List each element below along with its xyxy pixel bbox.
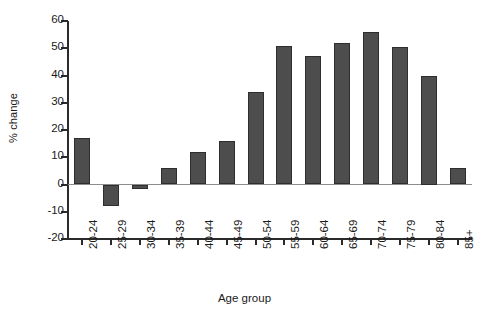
bar (161, 168, 177, 184)
x-tick-label: 40-44 (203, 220, 215, 249)
plot-area: 6050403020100-10-20 20-2425-2930-3435-39… (68, 21, 472, 239)
x-tick-mark (81, 239, 83, 245)
bar (392, 47, 408, 185)
x-tick-label: 20-24 (87, 220, 99, 249)
x-tick-label: 80-84 (434, 220, 446, 249)
x-tick-mark (197, 239, 199, 245)
x-tick-mark (283, 239, 285, 245)
x-tick-label: 60-64 (318, 220, 330, 249)
bar (450, 168, 466, 184)
x-tick-label: 45-49 (232, 220, 244, 249)
bar (276, 46, 292, 185)
bar (132, 185, 148, 189)
bar-series (68, 21, 472, 239)
x-tick-mark (341, 239, 343, 245)
y-tick-label: 40 (51, 68, 64, 80)
y-tick-label: -10 (47, 204, 64, 216)
x-tick-mark (428, 239, 430, 245)
y-tick-label: 60 (51, 13, 64, 25)
bar (305, 56, 321, 184)
x-tick-mark (226, 239, 228, 245)
x-tick-label: 35-39 (174, 220, 186, 249)
x-tick-label: 85+ (463, 229, 475, 249)
x-tick-mark (139, 239, 141, 245)
bar (421, 76, 437, 185)
x-axis-title: Age group (0, 292, 489, 304)
x-tick-label: 50-54 (261, 220, 273, 249)
y-tick-label: 50 (51, 40, 64, 52)
y-axis-title: % change (7, 73, 19, 163)
x-tick-label: 30-34 (145, 220, 157, 249)
x-tick-label: 75-79 (405, 220, 417, 249)
y-tick-label: 10 (51, 149, 64, 161)
x-tick-mark (370, 239, 372, 245)
y-tick-label: -20 (47, 231, 64, 243)
bar (103, 185, 119, 207)
x-tick-mark (399, 239, 401, 245)
bar (190, 152, 206, 185)
x-tick-mark (457, 239, 459, 245)
x-tick-mark (110, 239, 112, 245)
bar (334, 43, 350, 185)
x-tick-mark (168, 239, 170, 245)
x-tick-label: 70-74 (376, 220, 388, 249)
x-tick-label: 25-29 (116, 220, 128, 249)
y-tick-label: 0 (58, 177, 64, 189)
x-tick-mark (255, 239, 257, 245)
bar (363, 32, 379, 185)
bar (219, 141, 235, 185)
y-tick-label: 20 (51, 122, 64, 134)
x-tick-label: 65-69 (347, 220, 359, 249)
bar-chart: % change 6050403020100-10-20 20-2425-293… (0, 0, 489, 309)
x-tick-label: 55-59 (289, 220, 301, 249)
y-tick-label: 30 (51, 95, 64, 107)
bar (74, 138, 90, 184)
x-tick-mark (312, 239, 314, 245)
bar (248, 92, 264, 185)
